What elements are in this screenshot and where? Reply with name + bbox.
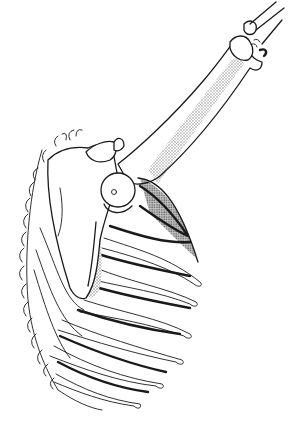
anatomy-illustration: [0, 0, 290, 434]
humerus: [101, 40, 262, 213]
elbow-and-forearm: [230, 2, 284, 60]
shoulder-skeleton-drawing: [0, 0, 290, 434]
